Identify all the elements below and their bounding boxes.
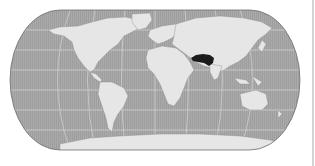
page-divider [312,0,314,166]
world-map [0,0,315,166]
australia [240,90,268,110]
